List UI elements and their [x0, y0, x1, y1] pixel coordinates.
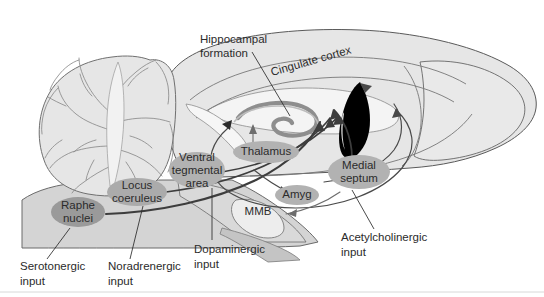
- brain-pathway-diagram: Hippocampal formation Cingulate cortex T…: [0, 0, 544, 297]
- label-medial-septum-line2: septum: [340, 172, 378, 184]
- label-mammillary-body: MMB: [245, 205, 272, 217]
- label-thalamus: Thalamus: [241, 145, 292, 157]
- label-noradrenergic-input-line2: input: [108, 275, 134, 287]
- label-ventral-tegmental-area-line3: area: [185, 177, 209, 189]
- label-ventral-tegmental-area-line2: tegmental: [172, 164, 223, 176]
- label-locus-coeruleus-line2: coeruleus: [112, 192, 162, 204]
- label-amygdala: Amyg: [282, 188, 311, 200]
- label-hippocampal-formation-line2: formation: [200, 47, 248, 59]
- label-acetylcholinergic-input-line2: input: [341, 246, 367, 258]
- label-medial-septum-line1: Medial: [342, 159, 376, 171]
- label-acetylcholinergic-input-line1: Acetylcholinergic: [341, 231, 428, 243]
- label-serotonergic-input-line1: Serotonergic: [20, 260, 85, 272]
- label-serotonergic-input-line2: input: [20, 275, 46, 287]
- label-raphe-nuclei-line1: Raphe: [61, 199, 95, 211]
- label-locus-coeruleus-line1: Locus: [122, 179, 153, 191]
- label-dopaminergic-input-line2: input: [194, 258, 220, 270]
- label-hippocampal-formation-line1: Hippocampal: [200, 33, 267, 45]
- label-noradrenergic-input-line1: Noradrenergic: [108, 260, 181, 272]
- label-dopaminergic-input-line1: Dopaminergic: [194, 243, 265, 255]
- label-ventral-tegmental-area-line1: Ventral: [179, 151, 215, 163]
- label-raphe-nuclei-line2: nuclei: [63, 212, 93, 224]
- leader-acetylcholinergic: [352, 190, 374, 229]
